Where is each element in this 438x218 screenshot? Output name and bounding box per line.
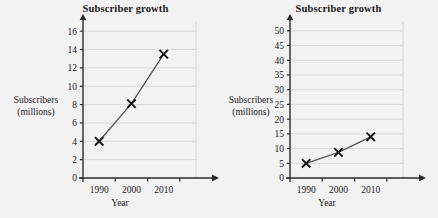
x-tick-label: 2010: [154, 185, 173, 195]
y-tick-label: 40: [275, 56, 285, 66]
y-tick-label: 45: [275, 41, 285, 51]
x-axis-arrowhead: [419, 175, 426, 182]
x-axis-label-right: Year: [287, 198, 367, 208]
y-tick-label: 2: [72, 155, 77, 165]
series-line: [306, 137, 371, 163]
y-tick-label: 4: [72, 137, 77, 147]
y-axis-label-right-line2: (millions): [215, 106, 287, 118]
data-point-marker: [127, 99, 135, 107]
chart-panel-right: Subscriber growth 0510152025303540455019…: [219, 0, 438, 218]
y-axis-arrowhead: [287, 14, 294, 20]
x-axis-arrowhead: [212, 175, 219, 182]
chart-panel-left: Subscriber growth 0246810121416199020002…: [0, 0, 219, 218]
x-tick-label: 1990: [297, 185, 316, 195]
y-axis-label-right-line1: Subscribers: [229, 95, 273, 105]
y-tick-label: 12: [68, 63, 78, 73]
x-axis-label-left: Year: [80, 198, 160, 208]
data-point-marker: [334, 148, 342, 156]
y-axis-label-right: Subscribers (millions): [215, 94, 287, 118]
data-point-marker: [160, 50, 168, 58]
x-tick-label: 2000: [329, 185, 348, 195]
y-tick-label: 16: [68, 27, 78, 37]
y-tick-label: 0: [72, 173, 77, 183]
y-tick-label: 10: [68, 82, 78, 92]
y-tick-label: 15: [275, 129, 285, 139]
y-axis-arrowhead: [80, 14, 87, 20]
y-tick-label: 14: [68, 45, 78, 55]
y-tick-label: 5: [279, 159, 284, 169]
x-tick-label: 2010: [361, 185, 380, 195]
y-tick-label: 35: [275, 70, 285, 80]
two-chart-figure: Subscriber growth 0246810121416199020002…: [0, 0, 438, 218]
y-axis-label-left-line2: (millions): [2, 106, 70, 118]
y-tick-label: 6: [72, 118, 77, 128]
y-axis-label-left-line1: Subscribers: [14, 95, 58, 105]
y-tick-label: 10: [275, 144, 285, 154]
y-axis-label-left: Subscribers (millions): [2, 94, 70, 118]
x-tick-label: 2000: [122, 185, 141, 195]
y-tick-label: 8: [72, 100, 77, 110]
y-tick-label: 0: [279, 173, 284, 183]
y-tick-label: 50: [275, 26, 285, 36]
x-tick-label: 1990: [90, 185, 109, 195]
series-line: [99, 54, 164, 141]
